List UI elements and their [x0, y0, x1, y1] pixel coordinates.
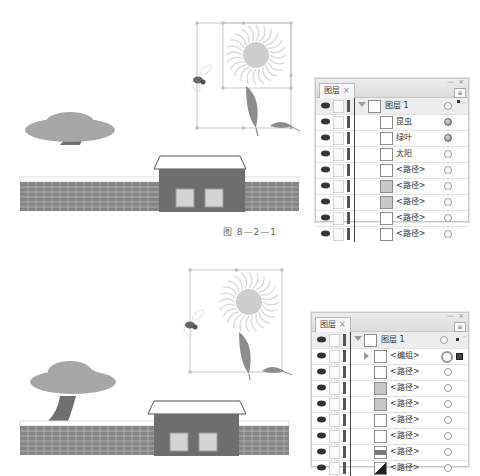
layer-row[interactable]: <路径>	[312, 364, 468, 381]
tab-layers[interactable]: 图层 ×	[315, 317, 351, 332]
visibility-eye-icon[interactable]	[321, 150, 330, 157]
visibility-eye-icon[interactable]	[317, 400, 326, 407]
layer-row[interactable]: <路径>	[316, 178, 468, 195]
visibility-eye-icon[interactable]	[321, 118, 330, 125]
visibility-eye-icon[interactable]	[321, 198, 330, 205]
layer-name: 太阳	[396, 148, 412, 160]
tab-close-icon[interactable]: ×	[339, 318, 346, 332]
target-circle-icon[interactable]	[444, 166, 452, 174]
visibility-eye-icon[interactable]	[317, 368, 326, 375]
lock-toggle[interactable]	[333, 196, 344, 209]
visibility-eye-icon[interactable]	[317, 384, 326, 391]
lock-toggle[interactable]	[329, 334, 340, 347]
visibility-eye-icon[interactable]	[317, 464, 326, 471]
panel-menu-icon[interactable]: ≡	[454, 322, 466, 332]
target-circle-icon[interactable]	[444, 118, 452, 126]
collapse-triangle-icon[interactable]	[364, 352, 369, 360]
striped-path-thumb-icon	[374, 446, 387, 459]
visibility-eye-icon[interactable]	[317, 416, 326, 423]
layer-name: <编组>	[390, 350, 419, 362]
target-circle-icon[interactable]	[444, 416, 452, 424]
target-circle-icon[interactable]	[444, 384, 452, 392]
visibility-eye-icon[interactable]	[317, 432, 326, 439]
lock-toggle[interactable]	[329, 366, 340, 379]
layer-row[interactable]: <路径>	[312, 396, 468, 413]
artwork-canvas-bottom[interactable]	[0, 240, 310, 460]
lock-toggle[interactable]	[333, 132, 344, 145]
layer-name: <路径>	[390, 382, 419, 394]
lock-toggle[interactable]	[329, 462, 340, 475]
target-circle-icon[interactable]	[444, 134, 452, 142]
expand-triangle-icon[interactable]	[354, 336, 362, 341]
layer-color-bar	[347, 196, 350, 208]
lock-toggle[interactable]	[333, 148, 344, 161]
tab-close-icon[interactable]: ×	[343, 84, 350, 98]
insect-thumb-icon	[380, 116, 393, 129]
insect-illustration	[182, 308, 205, 337]
gray-path-thumb-icon	[380, 196, 393, 209]
layer-row[interactable]: 昆虫	[316, 114, 468, 131]
layer-row[interactable]: <路径>	[312, 380, 468, 397]
target-circle-icon[interactable]	[444, 464, 452, 472]
cloud-path-thumb-icon	[380, 164, 393, 177]
lock-toggle[interactable]	[329, 414, 340, 427]
target-circle-icon[interactable]	[444, 182, 452, 190]
lock-toggle[interactable]	[329, 446, 340, 459]
column-divider	[350, 364, 351, 380]
visibility-eye-icon[interactable]	[321, 214, 330, 221]
lock-toggle[interactable]	[333, 212, 344, 225]
lock-toggle[interactable]	[333, 164, 344, 177]
gray-path-thumb-icon	[380, 180, 393, 193]
window-controls[interactable]: — ×	[447, 78, 465, 86]
target-circle-icon[interactable]	[444, 214, 452, 222]
visibility-eye-icon[interactable]	[321, 134, 330, 141]
layer-color-bar	[347, 212, 350, 224]
target-circle-icon[interactable]	[444, 198, 452, 206]
layer-row[interactable]: 图层 1 ^	[316, 98, 468, 115]
layer-row[interactable]: <路径>	[312, 444, 468, 461]
lock-toggle[interactable]	[329, 398, 340, 411]
layer-row[interactable]: 图层 1 ^	[312, 332, 468, 349]
target-circle-icon[interactable]	[444, 400, 452, 408]
layer-name: 绿叶	[396, 132, 412, 144]
window-controls[interactable]: — ×	[447, 312, 465, 320]
leaf-thumb-icon	[380, 132, 393, 145]
visibility-eye-icon[interactable]	[321, 102, 330, 109]
layer-row[interactable]: 太阳	[316, 146, 468, 163]
target-circle-icon[interactable]	[444, 102, 452, 110]
layer-row[interactable]: <路径>	[316, 194, 468, 211]
expand-triangle-icon[interactable]	[358, 102, 366, 107]
visibility-eye-icon[interactable]	[321, 166, 330, 173]
target-circle-icon[interactable]	[444, 432, 452, 440]
visibility-eye-icon[interactable]	[317, 448, 326, 455]
insect-illustration	[190, 63, 213, 92]
target-circle-icon[interactable]	[441, 351, 453, 363]
target-circle-icon[interactable]	[440, 336, 448, 344]
target-circle-icon[interactable]	[444, 150, 452, 158]
lock-toggle[interactable]	[333, 100, 344, 113]
layer-color-bar	[343, 446, 346, 458]
layer-row[interactable]: <路径>	[312, 428, 468, 445]
target-circle-icon[interactable]	[444, 448, 452, 456]
layer-row[interactable]: <编组>	[312, 348, 468, 365]
tab-layers[interactable]: 图层 ×	[319, 83, 355, 98]
column-divider	[350, 428, 351, 444]
panel-menu-icon[interactable]: ≡	[454, 88, 466, 98]
scroll-up-icon[interactable]: ^	[461, 335, 467, 343]
artwork-canvas-top[interactable]	[0, 0, 310, 220]
layer-row[interactable]: <路径>	[312, 412, 468, 429]
column-divider	[354, 146, 355, 162]
layer-row[interactable]: 绿叶	[316, 130, 468, 147]
lock-toggle[interactable]	[333, 116, 344, 129]
target-circle-icon[interactable]	[444, 368, 452, 376]
layer-row[interactable]: <路径>	[312, 460, 468, 476]
scroll-up-icon[interactable]: ^	[461, 101, 467, 109]
visibility-eye-icon[interactable]	[321, 182, 330, 189]
layer-row[interactable]: <路径>	[316, 162, 468, 179]
lock-toggle[interactable]	[329, 430, 340, 443]
lock-toggle[interactable]	[333, 180, 344, 193]
visibility-eye-icon[interactable]	[317, 352, 326, 359]
lock-toggle[interactable]	[329, 350, 340, 363]
lock-toggle[interactable]	[329, 382, 340, 395]
visibility-eye-icon[interactable]	[317, 336, 326, 343]
